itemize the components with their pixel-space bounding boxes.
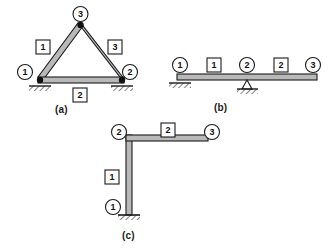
joint-a-3 bbox=[77, 22, 83, 28]
joint-a-1 bbox=[37, 77, 43, 83]
node-b-2: 2 bbox=[240, 58, 255, 73]
member-c-1-label: 1 bbox=[109, 172, 114, 182]
member-a-1-label: 1 bbox=[40, 42, 45, 52]
node-a-2: 2 bbox=[123, 65, 138, 80]
support-b-2 bbox=[237, 80, 258, 94]
member-c-2-tag: 2 bbox=[161, 123, 175, 137]
caption-c: (c) bbox=[122, 230, 135, 241]
support-a-1 bbox=[29, 86, 51, 91]
member-b-2-tag: 2 bbox=[274, 58, 288, 72]
member-c-1 bbox=[126, 135, 132, 215]
member-c-1-tag: 1 bbox=[105, 170, 119, 184]
member-b-1-label: 1 bbox=[211, 60, 216, 70]
node-b-3-label: 3 bbox=[310, 60, 315, 70]
node-c-2: 2 bbox=[112, 125, 127, 140]
caption-b: (b) bbox=[214, 102, 227, 113]
panel-c: 1 2 3 1 2 bbox=[105, 123, 220, 220]
node-a-3-label: 3 bbox=[78, 9, 83, 19]
support-c-1 bbox=[118, 215, 140, 220]
node-c-1: 1 bbox=[106, 200, 121, 215]
panel-b: 1 2 3 1 2 bbox=[169, 58, 321, 95]
node-a-3: 3 bbox=[73, 7, 88, 22]
node-b-2-label: 2 bbox=[244, 60, 249, 70]
node-c-2-label: 2 bbox=[116, 127, 121, 137]
node-c-1-label: 1 bbox=[110, 202, 115, 212]
structural-diagrams-svg: 1 2 3 1 3 2 bbox=[0, 0, 334, 252]
caption-a: (a) bbox=[55, 104, 68, 115]
node-a-1: 1 bbox=[18, 65, 33, 80]
support-a-2 bbox=[111, 86, 133, 91]
member-a-2-tag: 2 bbox=[73, 88, 87, 102]
member-a-2 bbox=[38, 77, 124, 83]
node-b-3: 3 bbox=[306, 58, 321, 73]
node-a-2-label: 2 bbox=[127, 67, 132, 77]
member-a-1-tag: 1 bbox=[36, 40, 50, 54]
member-a-2-label: 2 bbox=[77, 90, 82, 100]
member-a-3-label: 3 bbox=[112, 42, 117, 52]
node-b-1: 1 bbox=[173, 58, 188, 73]
figure-canvas: 1 2 3 1 3 2 bbox=[0, 0, 334, 252]
member-a-3-tag: 3 bbox=[108, 40, 122, 54]
member-b-1-tag: 1 bbox=[207, 58, 221, 72]
panel-a: 1 2 3 1 3 2 bbox=[18, 7, 138, 103]
node-c-3-label: 3 bbox=[209, 127, 214, 137]
node-a-1-label: 1 bbox=[22, 67, 27, 77]
support-b-1 bbox=[169, 83, 191, 88]
node-b-1-label: 1 bbox=[177, 60, 182, 70]
member-c-2-label: 2 bbox=[165, 125, 170, 135]
joint-a-2 bbox=[119, 77, 125, 83]
node-c-3: 3 bbox=[205, 125, 220, 140]
member-b-2-label: 2 bbox=[278, 60, 283, 70]
